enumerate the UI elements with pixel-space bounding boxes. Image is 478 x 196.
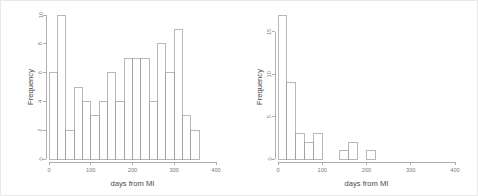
histogram-bar bbox=[313, 134, 322, 159]
x-axis: 0100200300400 bbox=[276, 162, 459, 173]
histogram-bar bbox=[340, 151, 349, 159]
histogram-bar bbox=[141, 58, 149, 159]
y-axis-tick-label: 10 bbox=[267, 71, 273, 77]
y-axis-tick-label: 8 bbox=[38, 42, 44, 45]
x-axis-title: days from MI bbox=[345, 179, 389, 188]
y-axis: 051015 bbox=[267, 29, 276, 161]
histogram-bar bbox=[116, 101, 124, 159]
x-axis-tick-label: 0 bbox=[47, 167, 50, 173]
histogram-bar bbox=[296, 134, 305, 159]
histogram-bar bbox=[124, 58, 132, 159]
histogram-bar bbox=[158, 44, 166, 159]
histogram-bar bbox=[278, 15, 287, 159]
histogram-bar bbox=[99, 101, 107, 159]
y-axis-tick-label: 0 bbox=[267, 157, 273, 160]
histogram-bar bbox=[287, 83, 296, 159]
bars-group bbox=[278, 15, 375, 159]
histogram-bar bbox=[166, 73, 174, 159]
histogram-bar bbox=[66, 130, 74, 159]
y-axis-tick-label: 6 bbox=[38, 71, 44, 74]
y-axis-tick-label: 4 bbox=[38, 100, 44, 103]
right-histogram-plot: 0510150100200300400days from MIFrequency bbox=[240, 1, 478, 196]
x-axis-tick-label: 200 bbox=[362, 167, 371, 173]
y-axis-tick-label: 10 bbox=[38, 12, 44, 18]
histogram-bar bbox=[107, 73, 115, 159]
figure-canvas: 02468100100200300400days from MIFrequenc… bbox=[0, 0, 478, 196]
x-axis-title: days from MI bbox=[111, 179, 155, 188]
left-histogram-panel: 02468100100200300400days from MIFrequenc… bbox=[1, 1, 240, 196]
x-axis-tick-label: 100 bbox=[318, 167, 327, 173]
histogram-bar bbox=[191, 130, 199, 159]
histogram-bar bbox=[367, 151, 376, 159]
x-axis-tick-label: 400 bbox=[211, 167, 220, 173]
histogram-bar bbox=[91, 116, 99, 159]
y-axis-tick-label: 15 bbox=[267, 29, 273, 35]
histogram-bar bbox=[183, 116, 191, 159]
x-axis-tick-label: 100 bbox=[86, 167, 95, 173]
x-axis-tick-label: 300 bbox=[170, 167, 179, 173]
left-histogram-plot: 02468100100200300400days from MIFrequenc… bbox=[1, 1, 240, 196]
histogram-bar bbox=[82, 101, 90, 159]
y-axis: 0246810 bbox=[38, 12, 47, 161]
x-axis-tick-label: 200 bbox=[128, 167, 137, 173]
histogram-bar bbox=[174, 29, 182, 159]
y-axis-tick-label: 0 bbox=[38, 157, 44, 160]
histogram-bar bbox=[305, 142, 314, 159]
histogram-bar bbox=[57, 15, 65, 159]
histogram-bar bbox=[74, 87, 82, 159]
x-axis-tick-label: 400 bbox=[450, 167, 459, 173]
bars-group bbox=[49, 15, 199, 159]
y-axis-tick-label: 2 bbox=[38, 129, 44, 132]
right-histogram-panel: 0510150100200300400days from MIFrequency bbox=[240, 1, 478, 196]
x-axis: 0100200300400 bbox=[47, 162, 220, 173]
histogram-bar bbox=[349, 142, 358, 159]
histogram-bar bbox=[49, 73, 57, 159]
y-axis-title: Frequency bbox=[255, 69, 264, 105]
x-axis-tick-label: 300 bbox=[406, 167, 415, 173]
histogram-bar bbox=[133, 58, 141, 159]
y-axis-title: Frequency bbox=[26, 69, 35, 105]
x-axis-tick-label: 0 bbox=[276, 167, 279, 173]
y-axis-tick-label: 5 bbox=[267, 115, 273, 118]
histogram-bar bbox=[149, 101, 157, 159]
